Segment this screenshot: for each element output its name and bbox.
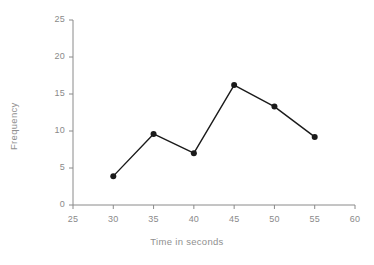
- y-tick-label: 25: [33, 14, 65, 24]
- x-tick-label: 60: [340, 214, 370, 224]
- y-tick-label: 10: [33, 125, 65, 135]
- data-point: [151, 131, 157, 137]
- y-tick-label: 0: [33, 199, 65, 209]
- x-tick-label: 45: [219, 214, 249, 224]
- x-tick-label: 55: [300, 214, 330, 224]
- y-tick-label: 5: [33, 162, 65, 172]
- data-point: [231, 82, 237, 88]
- data-series-line: [113, 85, 314, 176]
- y-axis-title: Frequency: [8, 102, 19, 150]
- x-tick-label: 50: [259, 214, 289, 224]
- y-tick-label: 20: [33, 51, 65, 61]
- x-tick-label: 35: [139, 214, 169, 224]
- x-tick-label: 30: [98, 214, 128, 224]
- y-tick-label: 15: [33, 88, 65, 98]
- data-point: [191, 150, 197, 156]
- x-axis-ticks: [73, 205, 355, 209]
- data-point: [271, 104, 277, 110]
- y-axis-ticks: [69, 20, 73, 205]
- data-point: [110, 173, 116, 179]
- x-tick-label: 40: [179, 214, 209, 224]
- x-axis-title: Time in seconds: [0, 236, 374, 247]
- data-point-markers: [110, 82, 317, 179]
- x-tick-label: 25: [58, 214, 88, 224]
- data-point: [312, 134, 318, 140]
- line-chart: 0510152025 2530354045505560 Time in seco…: [0, 0, 374, 265]
